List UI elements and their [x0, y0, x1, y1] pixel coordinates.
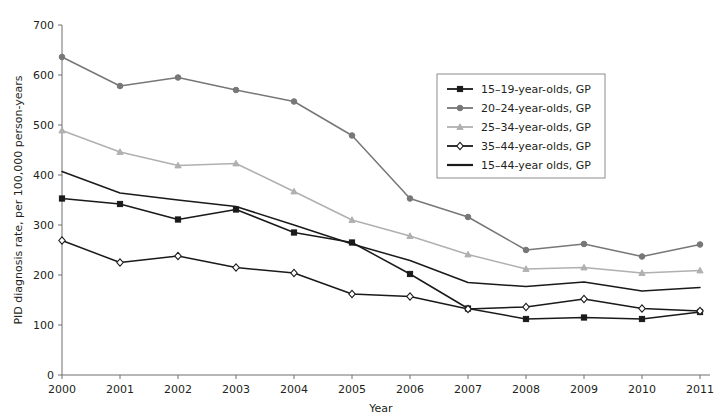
data-point-square	[117, 201, 122, 206]
data-point-circle	[581, 241, 587, 247]
legend-label: 25–34-year-olds, GP	[481, 121, 591, 134]
data-point-diamond	[523, 303, 529, 310]
x-tick-label: 2005	[338, 383, 366, 396]
y-tick-label: 300	[33, 219, 54, 232]
data-point-square	[349, 240, 354, 245]
data-point-square	[175, 217, 180, 222]
data-point-circle	[639, 254, 645, 260]
data-point-circle	[233, 87, 239, 93]
y-axis-title: PID diagnosis rate, per 100,000 person-y…	[12, 75, 25, 324]
y-tick-label: 500	[33, 119, 54, 132]
data-point-circle	[349, 133, 355, 139]
data-point-circle	[697, 242, 703, 248]
y-tick-label: 400	[33, 169, 54, 182]
data-point-circle	[523, 247, 529, 253]
series-2	[59, 127, 703, 275]
x-tick-label: 2008	[512, 383, 540, 396]
data-point-triangle	[59, 127, 65, 133]
data-point-diamond	[175, 252, 181, 259]
x-tick-label: 2000	[48, 383, 76, 396]
data-point-diamond	[117, 259, 123, 266]
series-line	[62, 241, 700, 312]
data-point-square	[233, 207, 238, 212]
data-point-diamond	[639, 305, 645, 312]
x-tick-label: 2004	[280, 383, 308, 396]
x-tick-label: 2011	[686, 383, 714, 396]
line-chart: 0100200300400500600700200020012002200320…	[0, 0, 716, 419]
data-point-square	[407, 271, 412, 276]
y-tick-label: 0	[47, 369, 54, 382]
x-tick-label: 2007	[454, 383, 482, 396]
data-point-square	[59, 196, 64, 201]
data-point-square	[581, 315, 586, 320]
legend-label: 20–24-year-olds, GP	[481, 102, 591, 115]
x-tick-label: 2002	[164, 383, 192, 396]
x-tick-label: 2001	[106, 383, 134, 396]
series-4	[62, 172, 700, 292]
y-tick-label: 200	[33, 269, 54, 282]
data-point-circle	[117, 83, 123, 89]
data-point-diamond	[407, 293, 413, 300]
legend-label: 15–44-year olds, GP	[481, 159, 591, 172]
x-axis-title: Year	[368, 402, 393, 415]
chart-container: 0100200300400500600700200020012002200320…	[0, 0, 716, 419]
data-point-square	[291, 230, 296, 235]
legend-label: 15–19-year-olds, GP	[481, 83, 591, 96]
x-tick-label: 2003	[222, 383, 250, 396]
x-tick-label: 2006	[396, 383, 424, 396]
y-tick-label: 700	[33, 19, 54, 32]
x-tick-label: 2010	[628, 383, 656, 396]
data-point-diamond	[581, 295, 587, 302]
data-point-circle	[59, 54, 65, 60]
data-point-circle	[291, 99, 297, 105]
data-point-square	[457, 86, 462, 91]
y-tick-label: 100	[33, 319, 54, 332]
data-point-square	[523, 316, 528, 321]
data-point-circle	[175, 75, 181, 81]
data-point-diamond	[233, 264, 239, 271]
data-point-diamond	[349, 290, 355, 297]
y-tick-label: 600	[33, 69, 54, 82]
legend: 15–19-year-olds, GP20–24-year-olds, GP25…	[437, 74, 605, 178]
data-point-square	[639, 316, 644, 321]
legend-label: 35–44-year-olds, GP	[481, 140, 591, 153]
data-point-diamond	[291, 269, 297, 276]
data-point-circle	[407, 196, 413, 202]
series-line	[62, 172, 700, 292]
data-point-diamond	[59, 237, 65, 244]
x-tick-label: 2009	[570, 383, 598, 396]
data-point-circle	[465, 214, 471, 220]
data-point-circle	[457, 105, 463, 111]
